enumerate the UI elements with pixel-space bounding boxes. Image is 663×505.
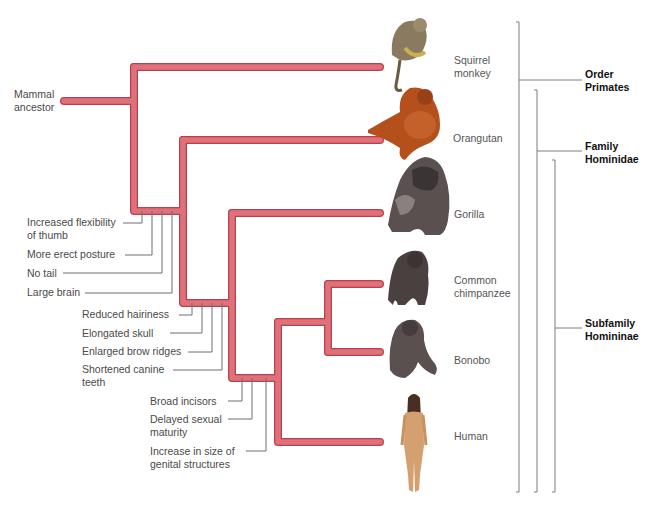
species-label-line: chimpanzee <box>454 287 511 300</box>
bonobo-illustration <box>390 320 437 378</box>
taxon-label-line: Hominidae <box>585 153 639 166</box>
trait-label-erect-posture: More erect posture <box>27 248 115 261</box>
squirrel-monkey-illustration <box>392 18 427 90</box>
root-label-line: Mammal <box>14 88 54 101</box>
taxon-label-line: Subfamily <box>585 317 639 330</box>
species-label-line: Bonobo <box>454 354 490 367</box>
species-label-squirrel-monkey: Squirrel monkey <box>454 54 491 80</box>
trait-label-line: Enlarged brow ridges <box>82 345 181 358</box>
taxon-label-line: Order <box>585 68 629 81</box>
trait-label-line: Broad incisors <box>150 395 217 408</box>
trait-label-line: Increased flexibility <box>27 216 116 229</box>
trait-label-delayed-maturity: Delayed sexual maturity <box>150 413 222 439</box>
trait-label-line: teeth <box>82 376 164 389</box>
taxon-label-family-hominidae: Family Hominidae <box>585 140 639 166</box>
trait-label-no-tail: No tail <box>27 267 57 280</box>
trait-label-line: No tail <box>27 267 57 280</box>
trait-label-broad-incisors: Broad incisors <box>150 395 217 408</box>
species-label-common-chimpanzee: Common chimpanzee <box>454 274 511 300</box>
gorilla-illustration <box>388 157 449 235</box>
species-label-line: monkey <box>454 67 491 80</box>
taxon-label-line: Family <box>585 140 639 153</box>
species-label-line: Gorilla <box>454 208 484 221</box>
taxonomic-brackets <box>516 22 582 492</box>
species-label-gorilla: Gorilla <box>454 208 484 221</box>
trait-label-canine-teeth: Shortened canine teeth <box>82 363 164 389</box>
trait-label-line: Increase in size of <box>150 445 235 458</box>
trait-label-line: Reduced hairiness <box>82 308 169 321</box>
trait-label-thumb-flexibility: Increased flexibility of thumb <box>27 216 116 242</box>
trait-label-line: More erect posture <box>27 248 115 261</box>
taxon-label-subfamily-homininae: Subfamily Homininae <box>585 317 639 343</box>
species-label-line: Human <box>454 430 488 443</box>
trait-label-elongated-skull: Elongated skull <box>82 327 153 340</box>
trait-label-line: Delayed sexual <box>150 413 222 426</box>
trait-label-line: genital structures <box>150 458 235 471</box>
trait-label-genital-structures: Increase in size of genital structures <box>150 445 235 471</box>
trait-label-line: Elongated skull <box>82 327 153 340</box>
species-label-line: Orangutan <box>453 132 503 145</box>
species-label-orangutan: Orangutan <box>453 132 503 145</box>
root-label-line: ancestor <box>14 101 54 114</box>
trait-label-line: of thumb <box>27 229 116 242</box>
human-illustration <box>402 394 426 492</box>
trait-label-line: maturity <box>150 426 222 439</box>
species-label-line: Common <box>454 274 511 287</box>
taxon-label-line: Primates <box>585 81 629 94</box>
trait-label-brow-ridges: Enlarged brow ridges <box>82 345 181 358</box>
trait-label-line: Large brain <box>27 286 80 299</box>
orangutan-illustration <box>368 87 440 160</box>
trait-label-line: Shortened canine <box>82 363 164 376</box>
root-label: Mammal ancestor <box>14 88 54 114</box>
species-label-bonobo: Bonobo <box>454 354 490 367</box>
taxon-label-line: Homininae <box>585 330 639 343</box>
taxon-label-order-primates: Order Primates <box>585 68 629 94</box>
trait-label-reduced-hairiness: Reduced hairiness <box>82 308 169 321</box>
chimpanzee-illustration <box>388 251 429 305</box>
species-label-line: Squirrel <box>454 54 491 67</box>
trait-label-large-brain: Large brain <box>27 286 80 299</box>
species-label-human: Human <box>454 430 488 443</box>
